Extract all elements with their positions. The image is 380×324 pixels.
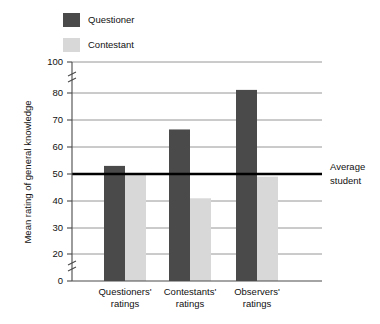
- y-axis-title: Mean rating of general knowledge: [22, 100, 33, 243]
- bar-contestant-0: [125, 174, 146, 281]
- bar-group: [104, 90, 278, 281]
- y-tick-label-100: 100: [47, 56, 63, 67]
- y-tick-label-60: 60: [52, 141, 63, 152]
- bar-questioner-1: [169, 129, 190, 281]
- y-axis: [67, 62, 76, 281]
- y-tick-label-50: 50: [52, 168, 63, 179]
- bar-chart: Questioner Contestant Average student 02…: [0, 0, 380, 324]
- y-axis-tick-labels: 020304050607080100: [47, 56, 63, 286]
- x-category-label-2-line1: ratings: [243, 298, 272, 309]
- bar-contestant-2: [257, 177, 278, 281]
- legend-label-questioner: Questioner: [88, 14, 134, 25]
- bar-contestant-1: [190, 198, 211, 281]
- y-tick-label-80: 80: [52, 87, 63, 98]
- x-category-label-0-line1: ratings: [111, 298, 140, 309]
- bar-questioner-0: [104, 166, 125, 281]
- average-student-label-line1: Average: [330, 161, 365, 172]
- y-tick-label-70: 70: [52, 114, 63, 125]
- x-category-label-2-line0: Observers': [234, 286, 280, 297]
- y-tick-label-30: 30: [52, 222, 63, 233]
- chart-container: Questioner Contestant Average student 02…: [0, 0, 380, 324]
- legend-swatch-questioner: [63, 13, 80, 27]
- y-tick-label-40: 40: [52, 195, 63, 206]
- y-tick-label-0: 0: [58, 275, 63, 286]
- y-tick-label-20: 20: [52, 248, 63, 259]
- average-student-label-line2: student: [330, 175, 362, 186]
- legend-swatch-contestant: [63, 38, 80, 52]
- legend-label-contestant: Contestant: [88, 39, 134, 50]
- x-axis-category-labels: Questioners'ratingsContestants'ratingsOb…: [98, 286, 280, 309]
- chart-legend: Questioner Contestant: [63, 13, 134, 52]
- y-axis-ticks: [67, 62, 72, 281]
- x-category-label-1-line1: ratings: [176, 298, 205, 309]
- x-category-label-0-line0: Questioners': [98, 286, 151, 297]
- x-category-label-1-line0: Contestants': [164, 286, 217, 297]
- bar-questioner-2: [236, 90, 257, 281]
